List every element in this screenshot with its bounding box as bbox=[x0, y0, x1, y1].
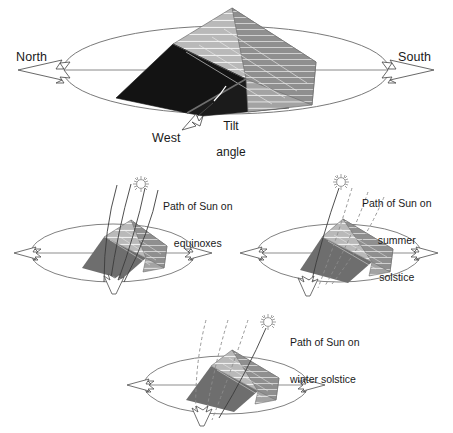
caption-summer-line1: Path of Sun on bbox=[362, 197, 431, 209]
caption-equinoxes: Path of Sun on equinoxes bbox=[163, 175, 232, 274]
winter-sun-icon bbox=[260, 314, 276, 330]
label-west: West bbox=[152, 131, 181, 145]
label-tilt-line2: angle bbox=[216, 145, 245, 159]
caption-summer-solstice: Path of Sun on summer solstice bbox=[362, 172, 431, 308]
caption-summer-line3: solstice bbox=[362, 271, 431, 283]
winter-ray-arrow bbox=[192, 406, 212, 426]
caption-winter-line2: winter solstice bbox=[290, 373, 359, 385]
caption-winter-solstice: Path of Sun on winter solstice bbox=[290, 311, 359, 410]
caption-winter-line1: Path of Sun on bbox=[290, 336, 359, 348]
caption-summer-line2: summer bbox=[362, 234, 431, 246]
figure-canvas: North South West Tilt angle Path of Sun … bbox=[0, 0, 453, 433]
caption-equinoxes-line1: Path of Sun on bbox=[163, 200, 232, 212]
equinox-sun-icon bbox=[133, 176, 149, 192]
summer-sun-icon bbox=[333, 174, 349, 190]
label-north: North bbox=[16, 50, 47, 64]
label-tilt-angle: Tilt angle bbox=[203, 107, 246, 172]
equinox-left-arrow bbox=[14, 247, 41, 260]
caption-equinoxes-line2: equinoxes bbox=[163, 237, 232, 249]
label-south: South bbox=[398, 50, 431, 64]
summer-left-arrow bbox=[240, 247, 267, 260]
label-tilt-line1: Tilt bbox=[223, 119, 239, 133]
winter-left-arrow bbox=[127, 379, 154, 392]
